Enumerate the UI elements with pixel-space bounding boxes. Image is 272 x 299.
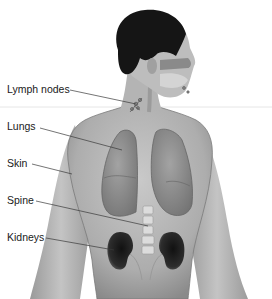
label-lymph-nodes: Lymph nodes: [7, 84, 70, 95]
label-spine: Spine: [7, 195, 34, 206]
label-kidneys: Kidneys: [7, 232, 44, 243]
label-lungs: Lungs: [7, 121, 36, 132]
ear: [147, 58, 157, 74]
spine: [142, 206, 154, 254]
anatomy-illustration: [0, 0, 272, 299]
label-skin: Skin: [7, 158, 27, 169]
anatomy-diagram: Lymph nodes Lungs Skin Spine Kidneys: [0, 0, 272, 299]
